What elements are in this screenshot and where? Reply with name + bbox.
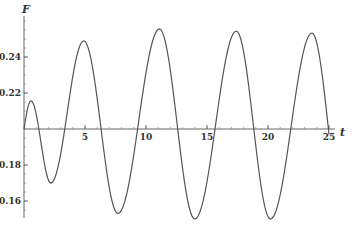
y-tick-label: 0.16 xyxy=(0,196,21,206)
x-tick-label: 5 xyxy=(82,132,88,142)
y-tick-label: 0.24 xyxy=(0,52,21,62)
x-tick-label: 20 xyxy=(262,132,275,142)
x-tick-label: 15 xyxy=(201,132,214,142)
y-axis-label: F xyxy=(21,3,31,16)
y-axis: 0.160.180.220.24 xyxy=(0,16,28,218)
y-tick-label: 0.18 xyxy=(0,160,21,170)
chart: 0.160.180.220.24 510152025 F t xyxy=(0,0,354,230)
x-tick-label: 10 xyxy=(140,132,153,142)
y-tick-label: 0.22 xyxy=(0,88,21,98)
x-axis: 510152025 xyxy=(24,125,335,142)
data-line xyxy=(24,29,329,219)
x-axis-label: t xyxy=(340,126,345,139)
